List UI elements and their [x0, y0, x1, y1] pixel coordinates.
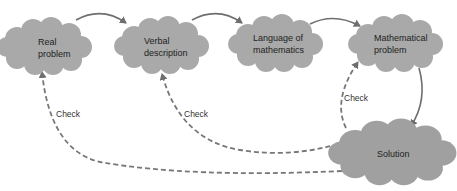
- arrow-mathematical-to-solution: [411, 68, 422, 126]
- label-language-of-mathematics-2: mathematics: [253, 45, 305, 55]
- label-mathematical-problem: Mathematical: [374, 33, 428, 43]
- cloud-mathematical-problem: [348, 14, 443, 72]
- label-mathematical-problem-2: problem: [374, 45, 407, 55]
- label-real-problem-2: problem: [38, 49, 71, 59]
- label-verbal-description-2: description: [144, 48, 188, 58]
- check-label-real: Check: [56, 109, 81, 119]
- label-solution: Solution: [377, 149, 410, 159]
- check-label-verbal: Check: [184, 109, 209, 119]
- arrow-language-to-mathematical: [310, 18, 360, 26]
- arrow-verbal-to-language: [192, 14, 242, 23]
- modeling-cycle-diagram: Real problem Verbal description Language…: [0, 0, 457, 191]
- check-label-mathematical: Check: [344, 93, 369, 103]
- label-verbal-description: Verbal: [144, 36, 170, 46]
- cloud-language-of-mathematics: [228, 14, 323, 72]
- arrow-real-to-verbal: [76, 14, 126, 23]
- check-arrow-to-real-problem: [42, 72, 342, 173]
- label-real-problem: Real: [38, 37, 57, 47]
- label-language-of-mathematics: Language of: [253, 33, 304, 43]
